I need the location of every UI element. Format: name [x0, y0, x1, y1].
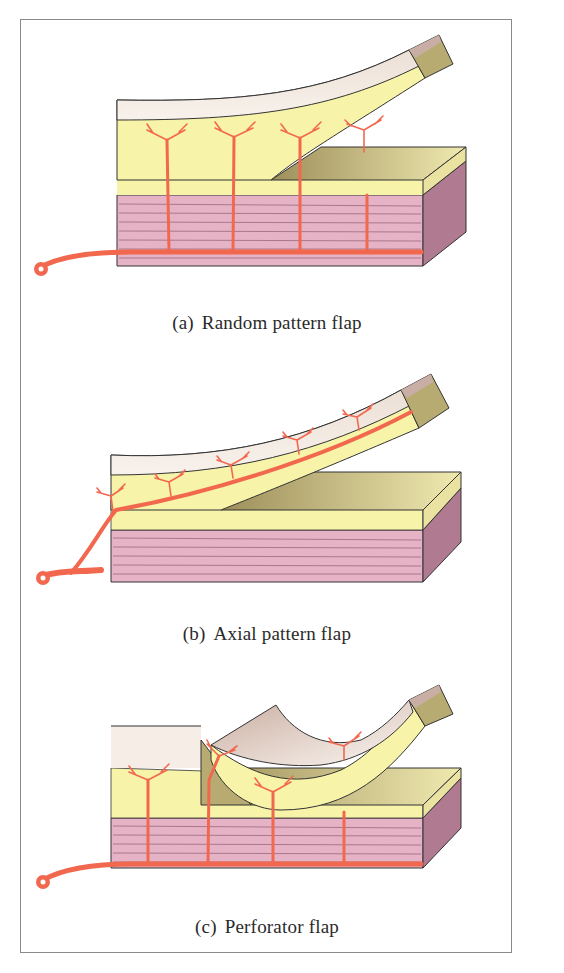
- caption-tag: (b): [183, 623, 206, 644]
- panel-random-pattern-flap: (a)Random pattern flap: [21, 20, 513, 350]
- panel-axial-pattern-flap: (b)Axial pattern flap: [21, 360, 513, 650]
- panel-perforator-flap: (c)Perforator flap: [21, 650, 513, 950]
- perforator-flap-illustration: [21, 650, 513, 920]
- caption-label: Perforator flap: [225, 916, 339, 937]
- caption-tag: (a): [172, 312, 194, 333]
- caption-label: Random pattern flap: [202, 312, 362, 333]
- figure-frame: (a)Random pattern flap: [20, 19, 512, 953]
- random-pattern-flap-illustration: [21, 20, 513, 320]
- axial-pattern-flap-illustration: [21, 360, 513, 620]
- caption-perforator-flap: (c)Perforator flap: [21, 916, 513, 938]
- caption-random-pattern-flap: (a)Random pattern flap: [21, 312, 513, 334]
- caption-label: Axial pattern flap: [214, 623, 352, 644]
- caption-tag: (c): [195, 916, 217, 937]
- caption-axial-pattern-flap: (b)Axial pattern flap: [21, 623, 513, 645]
